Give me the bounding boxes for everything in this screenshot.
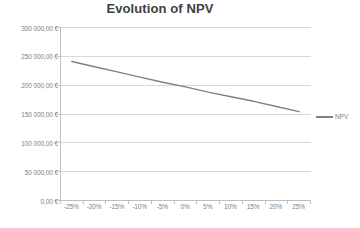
y-axis-tick-labels: 0,00 €50 000,00 €100 000,00 €150 000,00 … xyxy=(0,0,58,228)
chart-legend: NPV xyxy=(316,113,348,120)
x-tick-label: -25% xyxy=(64,203,79,210)
y-tick-label: 300 000,00 € xyxy=(0,24,58,31)
series-line-npv xyxy=(72,62,299,112)
gridlines xyxy=(61,28,311,201)
x-tick-label: -15% xyxy=(109,203,124,210)
x-tick-label: 20% xyxy=(270,203,283,210)
x-tick-label: 25% xyxy=(292,203,305,210)
x-tick-label: 15% xyxy=(247,203,260,210)
data-series-layer xyxy=(72,62,299,112)
y-tick-label: 0,00 € xyxy=(0,197,58,204)
y-tick-label: 200 000,00 € xyxy=(0,82,58,89)
legend-line-swatch-npv xyxy=(316,116,333,118)
x-tick-label: 10% xyxy=(224,203,237,210)
y-tick-label: 50 000,00 € xyxy=(0,168,58,175)
legend-label-npv: NPV xyxy=(335,113,348,120)
y-tick-label: 100 000,00 € xyxy=(0,139,58,146)
x-tick-label: 5% xyxy=(203,203,212,210)
y-tick-label: 250 000,00 € xyxy=(0,53,58,60)
x-axis-tick-labels: -25%-20%-15%-10%-5%0%5%10%15%20%25% xyxy=(60,203,310,217)
y-tick-label: 150 000,00 € xyxy=(0,111,58,118)
x-tick-label: -10% xyxy=(132,203,147,210)
npv-line-chart: Evolution of NPV 0,00 €50 000,00 €100 00… xyxy=(0,0,360,228)
x-tick-label: -20% xyxy=(87,203,102,210)
x-tick-label: 0% xyxy=(180,203,189,210)
x-tick-label: -5% xyxy=(157,203,168,210)
